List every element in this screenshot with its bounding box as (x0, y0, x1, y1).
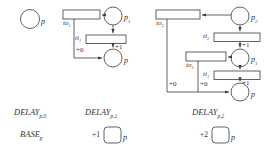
transition-to1-right (186, 52, 226, 61)
petri-net-figure: p to1 ti1 p1 p +0 +1 to2 ti2 to1 ti1 p2 … (0, 0, 275, 152)
arc-weight-plus1-left: +1 (115, 44, 122, 51)
place-p-left (104, 49, 122, 67)
legend-delay2-weight: +2 (200, 131, 208, 139)
legend-delay1-place-label: p (123, 134, 127, 142)
place-label-p-base: p (41, 18, 45, 26)
transition-label-ti1-right: ti1 (203, 71, 209, 80)
arc-weight-plus0-right-inner: +0 (200, 81, 207, 88)
legend-delay-p0-label: DELAYp,0 (14, 108, 46, 119)
legend-delay1-shape (104, 127, 121, 143)
place-p1-right (231, 49, 249, 67)
place-label-p-right: p (251, 91, 255, 99)
transition-ti2-right (214, 33, 260, 42)
legend-base-p-label: BASEp (20, 130, 42, 141)
place-label-p2-right: p2 (251, 14, 257, 25)
arc-weight-plus0-left: +0 (76, 47, 83, 54)
transition-to1-left (63, 10, 100, 19)
place-label-p-left: p (124, 57, 128, 65)
transition-label-to1-left: to1 (63, 20, 71, 29)
transition-label-to2-right: to2 (156, 20, 164, 29)
transition-label-to1-right: to1 (186, 62, 194, 71)
arc-weight-plus1-right-bot: +1 (242, 80, 249, 87)
transition-label-ti2-right: ti2 (203, 33, 209, 42)
transition-to2-right (156, 10, 200, 19)
arc-weight-plus1-right-top: +1 (242, 42, 249, 49)
place-p1-left (104, 7, 122, 25)
legend-delay1-weight: +1 (92, 131, 100, 139)
legend-delay2-shape (212, 127, 229, 143)
legend-delay-p2-label: DELAYp,2 (192, 108, 224, 119)
transition-ti1-right (214, 71, 260, 80)
legend-delay2-place-label: p (231, 134, 235, 142)
place-label-p1-right: p1 (251, 56, 257, 67)
transition-label-ti1-left: ti1 (75, 35, 81, 44)
arc-weight-plus0-right-outer: +0 (169, 81, 176, 88)
place-p2-right (231, 7, 249, 25)
legend-delay-p1-label: DELAYp,1 (85, 108, 117, 119)
place-label-p1-left: p1 (124, 14, 130, 25)
